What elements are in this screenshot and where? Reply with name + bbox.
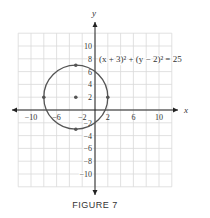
x-tick-label: 10 [155,113,163,122]
y-axis-arrow-down-icon [93,190,98,195]
y-tick-label: −4 [83,132,92,141]
y-tick-label: 4 [88,80,92,89]
y-tick-label: 10 [84,42,92,51]
x-tick-label: −10 [25,113,38,122]
data-point-left [42,95,46,99]
figure-caption: FIGURE 7 [0,200,190,210]
x-tick-label: 6 [131,113,135,122]
y-tick-label: −6 [83,144,92,153]
x-axis-arrow-right-icon [173,108,178,113]
y-axis-label: y [91,8,96,18]
y-tick-label: −10 [79,170,92,179]
data-point-right [106,95,110,99]
y-tick-label: 8 [88,55,92,64]
data-point-center [74,95,78,99]
data-point-top [74,63,78,67]
y-tick-label: 2 [88,93,92,102]
equation-label: (x + 3)² + (y − 2)² = 25 [99,54,182,64]
y-tick-label: −8 [83,157,92,166]
figure-plot: xy−10−6−22610108642−2−4−6−8−10(x + 3)² +… [0,0,210,218]
x-axis-arrow-left-icon [12,108,17,113]
y-axis-arrow-up-icon [93,22,98,27]
data-point-bottom [74,127,78,131]
x-axis-label: x [183,105,188,115]
x-tick-label: 2 [106,113,110,122]
